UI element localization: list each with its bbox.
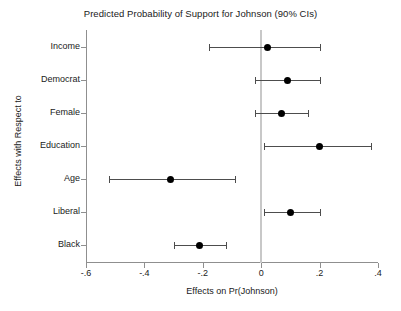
confidence-interval-cap bbox=[320, 77, 321, 84]
confidence-interval-cap bbox=[174, 242, 175, 249]
confidence-interval-cap bbox=[109, 176, 110, 183]
confidence-interval-cap bbox=[255, 77, 256, 84]
chart-title: Predicted Probability of Support for Joh… bbox=[0, 8, 401, 19]
y-axis-tick-label: Female bbox=[8, 107, 80, 117]
chart-figure: Predicted Probability of Support for Joh… bbox=[0, 0, 401, 311]
confidence-interval-row bbox=[0, 146, 401, 147]
estimate-marker bbox=[167, 176, 174, 183]
confidence-interval-cap bbox=[255, 110, 256, 117]
estimate-marker bbox=[287, 209, 294, 216]
x-axis-tick-label: -.2 bbox=[183, 268, 223, 278]
y-axis-tick-label: Education bbox=[8, 140, 80, 150]
confidence-interval-cap bbox=[308, 110, 309, 117]
x-axis-line bbox=[86, 262, 378, 263]
x-axis-tick-label: -.4 bbox=[124, 268, 164, 278]
confidence-interval-cap bbox=[264, 143, 265, 150]
confidence-interval-row bbox=[0, 245, 401, 246]
confidence-interval-row bbox=[0, 212, 401, 213]
confidence-interval-cap bbox=[371, 143, 372, 150]
y-axis-tick-label: Democrat bbox=[8, 74, 80, 84]
confidence-interval-cap bbox=[320, 44, 321, 51]
confidence-interval-row bbox=[0, 113, 401, 114]
confidence-interval-cap bbox=[226, 242, 227, 249]
x-axis-tick-label: .4 bbox=[358, 268, 398, 278]
x-axis-title: Effects on Pr(Johnson) bbox=[86, 286, 378, 296]
estimate-marker bbox=[284, 77, 291, 84]
confidence-interval-cap bbox=[209, 44, 210, 51]
estimate-marker bbox=[316, 143, 323, 150]
confidence-interval-cap bbox=[235, 176, 236, 183]
x-axis-tick-label: 0 bbox=[241, 268, 281, 278]
x-axis-tick-label: .2 bbox=[300, 268, 340, 278]
x-axis-tick-label: -.6 bbox=[66, 268, 106, 278]
estimate-marker bbox=[278, 110, 285, 117]
confidence-interval-cap bbox=[320, 209, 321, 216]
y-axis-tick-label: Income bbox=[8, 41, 80, 51]
confidence-interval-row bbox=[0, 47, 401, 48]
confidence-interval-row bbox=[0, 179, 401, 180]
estimate-marker bbox=[264, 44, 271, 51]
confidence-interval-row bbox=[0, 80, 401, 81]
estimate-marker bbox=[196, 242, 203, 249]
confidence-interval-cap bbox=[264, 209, 265, 216]
